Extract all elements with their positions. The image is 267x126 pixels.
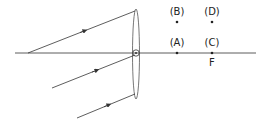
label-focus: F xyxy=(209,57,215,68)
incident-ray-top xyxy=(28,11,135,53)
point-a xyxy=(176,52,179,55)
label-c: (C) xyxy=(205,37,220,48)
incident-ray-middle xyxy=(52,55,135,88)
point-d xyxy=(211,21,214,24)
ray-diagram: (B) (D) (A) (C) F xyxy=(0,0,267,126)
point-b xyxy=(176,21,179,24)
label-a: (A) xyxy=(170,37,185,48)
label-d: (D) xyxy=(204,6,220,17)
label-b: (B) xyxy=(170,6,185,17)
point-c xyxy=(211,52,214,55)
incident-ray-bottom xyxy=(77,94,135,118)
